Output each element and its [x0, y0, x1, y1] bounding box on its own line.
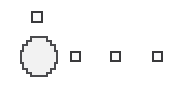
node-row-1[interactable] [70, 51, 81, 62]
node-blob[interactable] [20, 36, 58, 77]
node-row-3-label [154, 53, 155, 54]
node-row-2-label [112, 53, 113, 54]
node-row-2[interactable] [110, 51, 121, 62]
node-row-3[interactable] [152, 51, 163, 62]
node-top-square[interactable] [31, 11, 43, 23]
node-blob-label [20, 77, 21, 78]
blob-shape-icon [20, 36, 58, 77]
diagram-canvas[interactable] [0, 0, 191, 91]
node-row-1-label [72, 53, 73, 54]
node-top-square-label [33, 13, 34, 14]
